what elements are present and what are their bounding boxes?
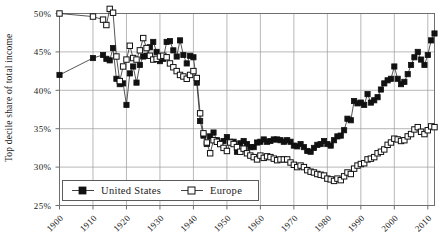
data-point-marker bbox=[90, 14, 95, 19]
data-point-marker bbox=[204, 140, 209, 145]
data-point-marker bbox=[348, 171, 353, 176]
legend-item-europe[interactable]: Europe bbox=[181, 185, 242, 196]
data-point-marker bbox=[114, 54, 119, 59]
data-point-marker bbox=[127, 43, 132, 48]
data-point-marker bbox=[191, 55, 196, 60]
data-point-marker bbox=[181, 52, 186, 57]
data-point-marker bbox=[422, 62, 427, 67]
data-point-marker bbox=[137, 48, 142, 53]
data-point-marker bbox=[362, 102, 367, 107]
data-point-marker bbox=[110, 45, 115, 50]
legend-label-united-states: United States bbox=[101, 185, 161, 196]
legend-marker-us bbox=[79, 187, 86, 194]
legend-label-europe: Europe bbox=[210, 185, 242, 196]
data-point-marker bbox=[432, 31, 437, 36]
y-tick-label: 25% bbox=[34, 201, 52, 211]
chart-legend[interactable]: United States Europe bbox=[63, 181, 259, 201]
data-point-marker bbox=[104, 22, 109, 27]
data-point-marker bbox=[365, 92, 370, 97]
data-point-marker bbox=[124, 102, 129, 107]
data-point-marker bbox=[144, 45, 149, 50]
data-point-marker bbox=[378, 87, 383, 92]
data-point-marker bbox=[164, 55, 169, 60]
data-point-marker bbox=[419, 57, 424, 62]
data-point-marker bbox=[405, 72, 410, 77]
data-point-marker bbox=[124, 57, 129, 62]
y-tick-label: 35% bbox=[34, 124, 52, 134]
y-axis-title-label: Top decile share of total income bbox=[4, 34, 14, 162]
data-point-marker bbox=[429, 38, 434, 43]
y-tick-label: 40% bbox=[34, 86, 52, 96]
data-point-marker bbox=[134, 57, 139, 62]
data-point-marker bbox=[425, 52, 430, 57]
data-point-marker bbox=[338, 133, 343, 138]
legend-item-united-states[interactable]: United States bbox=[72, 185, 161, 196]
legend-marker-europe bbox=[188, 187, 195, 194]
data-point-marker bbox=[110, 10, 115, 15]
data-point-marker bbox=[134, 80, 139, 85]
data-point-marker bbox=[412, 55, 417, 60]
data-point-marker bbox=[117, 78, 122, 83]
data-point-marker bbox=[402, 79, 407, 84]
data-point-marker bbox=[90, 55, 95, 60]
data-point-marker bbox=[375, 95, 380, 100]
y-tick-label: 50% bbox=[34, 9, 52, 19]
chart-background bbox=[0, 0, 446, 252]
data-point-marker bbox=[57, 11, 62, 16]
data-point-marker bbox=[392, 64, 397, 69]
data-point-marker bbox=[127, 71, 132, 76]
y-axis-title: Top decile share of total income bbox=[4, 34, 14, 162]
data-point-marker bbox=[415, 49, 420, 54]
data-point-marker bbox=[171, 48, 176, 53]
data-point-marker bbox=[395, 76, 400, 81]
data-point-marker bbox=[224, 148, 229, 153]
y-tick-label: 45% bbox=[34, 47, 52, 57]
chart-root: Top decile share of total income 25%30%3… bbox=[0, 0, 446, 252]
data-point-marker bbox=[107, 58, 112, 63]
data-point-marker bbox=[197, 111, 202, 116]
y-tick-label: 30% bbox=[34, 162, 52, 172]
data-point-marker bbox=[191, 68, 196, 73]
income-inequality-line-chart: Top decile share of total income 25%30%3… bbox=[0, 0, 446, 252]
data-point-marker bbox=[137, 62, 142, 67]
data-point-marker bbox=[328, 143, 333, 148]
data-point-marker bbox=[207, 151, 212, 156]
data-point-marker bbox=[57, 72, 62, 77]
data-point-marker bbox=[342, 128, 347, 133]
data-point-marker bbox=[141, 35, 146, 40]
data-point-marker bbox=[348, 118, 353, 123]
data-point-marker bbox=[388, 76, 393, 81]
data-point-marker bbox=[174, 54, 179, 59]
data-point-marker bbox=[120, 64, 125, 69]
data-point-marker bbox=[408, 62, 413, 67]
data-point-marker bbox=[432, 124, 437, 129]
data-point-marker bbox=[211, 130, 216, 135]
data-point-marker bbox=[177, 38, 182, 43]
data-point-marker bbox=[167, 39, 172, 44]
data-point-marker bbox=[100, 17, 105, 22]
data-point-marker bbox=[131, 64, 136, 69]
data-point-marker bbox=[151, 39, 156, 44]
data-point-marker bbox=[194, 75, 199, 80]
data-point-marker bbox=[201, 131, 206, 136]
data-point-marker bbox=[184, 61, 189, 66]
